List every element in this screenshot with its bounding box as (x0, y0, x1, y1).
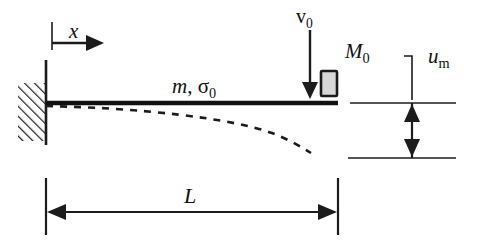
beam-mass-symbol: m (172, 74, 187, 98)
velocity-subscript: 0 (306, 16, 313, 31)
deflection-symbol: u (428, 44, 439, 68)
beam-diagram-svg: x m, σ0 v0 M0 (0, 0, 491, 243)
beam-diagram-figure: x m, σ0 v0 M0 (0, 0, 491, 243)
deflection-subscript: m (439, 55, 450, 71)
length-label: L (183, 183, 196, 208)
fixed-support-hatching (18, 83, 46, 141)
beam-stress-subscript: 0 (209, 85, 216, 101)
beam-stress-symbol: σ (198, 74, 209, 98)
x-axis-label: x (68, 19, 79, 43)
tip-mass-block (321, 71, 337, 96)
velocity-symbol: v (296, 5, 306, 27)
beam-properties-separator: , (187, 74, 198, 98)
tip-mass-subscript: 0 (363, 50, 370, 66)
tip-mass-symbol: M (344, 39, 364, 63)
